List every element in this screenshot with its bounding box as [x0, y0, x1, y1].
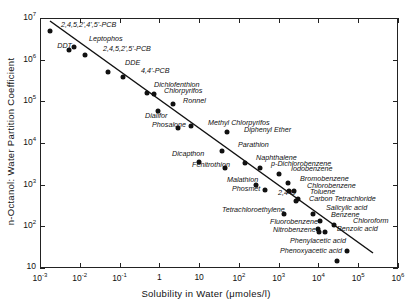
- data-point: [316, 229, 321, 234]
- y-tick-label: 107: [10, 11, 36, 22]
- data-point: [189, 124, 194, 129]
- y-tick: [40, 185, 45, 186]
- point-label: DDE: [125, 59, 140, 67]
- y-tick: [393, 101, 398, 102]
- data-point: [151, 91, 156, 96]
- y-tick: [40, 18, 45, 19]
- data-point: [285, 180, 290, 185]
- x-tick: [199, 18, 200, 23]
- point-label: Parathion: [238, 141, 269, 149]
- point-label: Fenitrothion: [192, 161, 230, 169]
- x-tick-label: 10: [194, 272, 203, 282]
- scatter-chart: 10-310-210-1110102103104105106 107106105…: [0, 0, 412, 307]
- y-tick: [393, 143, 398, 144]
- point-label: Phosmet: [232, 185, 260, 193]
- x-tick: [199, 263, 200, 268]
- data-point: [48, 28, 53, 33]
- x-tick: [318, 18, 319, 23]
- point-label: DDT: [57, 42, 72, 50]
- point-label: Dicapthon: [172, 150, 204, 158]
- data-point: [220, 149, 225, 154]
- x-tick-label: 10-1: [112, 272, 127, 283]
- point-label: Tetrachloroethylene: [222, 206, 285, 214]
- x-tick: [358, 263, 359, 268]
- data-point: [170, 102, 175, 107]
- point-label: Ronnel: [183, 97, 206, 105]
- data-point: [242, 161, 247, 166]
- point-label: 4,4'-PCB: [141, 67, 170, 75]
- point-label: Nitrobenzene: [273, 226, 316, 234]
- data-point: [277, 172, 282, 177]
- x-tick: [159, 18, 160, 23]
- x-tick-label: 10-3: [33, 272, 48, 283]
- data-point: [105, 70, 110, 75]
- x-axis-title: Solubility in Water (μmoles/l): [0, 288, 412, 299]
- x-tick-label: 106: [392, 272, 405, 283]
- point-label: Phosalone: [152, 121, 186, 129]
- point-label: Iodobenzene: [291, 165, 333, 173]
- x-tick-label: 10-2: [72, 272, 87, 283]
- data-point: [292, 189, 297, 194]
- point-label: Diphenyl Ether: [244, 126, 291, 134]
- x-tick: [279, 263, 280, 268]
- x-tick: [398, 18, 399, 23]
- x-tick: [159, 263, 160, 268]
- point-label: Leptophos: [89, 35, 123, 43]
- point-label: Phenylacetic acid: [290, 237, 346, 245]
- point-label: Dialifor: [145, 112, 167, 120]
- point-label: Carbon Tetrachloride: [309, 195, 376, 203]
- x-tick: [80, 263, 81, 268]
- data-point: [72, 45, 77, 50]
- data-point: [331, 222, 336, 227]
- data-point: [262, 187, 267, 192]
- y-tick: [40, 143, 45, 144]
- y-tick: [393, 268, 398, 269]
- y-axis-title: n-Octanol: Water Partition Coefficient: [5, 22, 16, 262]
- point-label: Phenoxyacetic acid: [280, 247, 342, 255]
- x-tick: [318, 263, 319, 268]
- point-label: 2,4,5,2',5'-PCB: [103, 45, 151, 53]
- point-label: Malathion: [227, 176, 258, 184]
- y-tick: [40, 60, 45, 61]
- y-tick-label: 10: [10, 261, 36, 271]
- data-point: [322, 229, 327, 234]
- data-point: [120, 75, 125, 80]
- x-tick: [239, 263, 240, 268]
- y-tick: [393, 60, 398, 61]
- x-tick: [358, 18, 359, 23]
- x-tick: [279, 18, 280, 23]
- point-label: Chlorpyrifos: [164, 87, 202, 95]
- x-tick-label: 1: [157, 272, 162, 282]
- data-point: [257, 166, 262, 171]
- data-point: [144, 90, 149, 95]
- y-tick: [40, 268, 45, 269]
- x-tick: [120, 263, 121, 268]
- x-tick-label: 105: [352, 272, 365, 283]
- data-point: [224, 130, 229, 135]
- point-label: 2,4,5,2',4',5'-PCB: [61, 21, 116, 29]
- y-tick: [393, 226, 398, 227]
- x-tick: [120, 18, 121, 23]
- data-point: [294, 199, 299, 204]
- y-tick: [40, 226, 45, 227]
- x-tick-label: 102: [232, 272, 245, 283]
- x-tick: [398, 263, 399, 268]
- point-label: Benzoic acid: [337, 225, 378, 233]
- y-tick: [393, 18, 398, 19]
- y-tick: [40, 101, 45, 102]
- x-tick-label: 104: [312, 272, 325, 283]
- data-point: [311, 211, 316, 216]
- data-point: [344, 249, 349, 254]
- data-point: [82, 52, 87, 57]
- data-point: [335, 258, 340, 263]
- y-tick: [393, 185, 398, 186]
- x-tick-label: 103: [272, 272, 285, 283]
- x-tick: [239, 18, 240, 23]
